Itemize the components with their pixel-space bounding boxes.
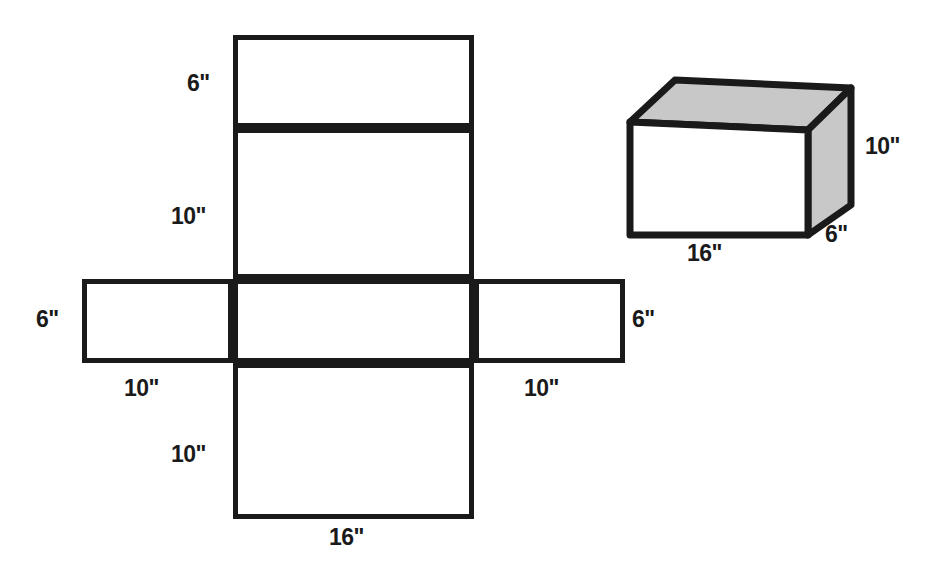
net-panel-front xyxy=(233,363,474,519)
solid-label-height: 10" xyxy=(865,133,900,160)
net-label-top-flap-height: 6" xyxy=(187,70,210,97)
diagram-canvas: 6" 10" 6" 6" 10" 10" 10" 16" 10" 6" 16" xyxy=(0,0,938,575)
prism-front-face xyxy=(630,122,808,235)
net-label-front-panel-height: 10" xyxy=(171,441,206,468)
rectangular-prism-svg xyxy=(612,60,932,290)
solid-label-depth: 6" xyxy=(825,221,848,248)
net-label-back-panel-height: 10" xyxy=(171,203,206,230)
net-label-right-flap-width: 10" xyxy=(524,375,559,402)
net-label-left-flap-height: 6" xyxy=(36,306,59,333)
solid-label-length: 16" xyxy=(687,240,722,267)
net-panel-right-flap xyxy=(474,279,625,363)
net-panel-top-flap xyxy=(233,35,474,128)
net-panel-base xyxy=(233,279,474,363)
net-label-left-flap-width: 10" xyxy=(124,375,159,402)
net-label-right-flap-height: 6" xyxy=(632,306,655,333)
net-panel-back xyxy=(233,128,474,279)
net-panel-left-flap xyxy=(82,279,233,363)
rectangular-prism-figure: 10" 6" 16" xyxy=(612,60,932,290)
net-label-front-panel-width: 16" xyxy=(329,524,364,551)
